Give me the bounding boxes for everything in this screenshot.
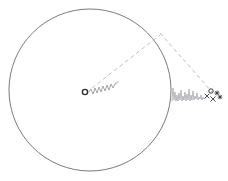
receiver-marker-star-1 [215, 91, 219, 95]
technical-diagram [0, 0, 228, 181]
figure-background [0, 0, 228, 181]
diagram-canvas [0, 0, 228, 181]
receiver-marker-star-2 [218, 95, 222, 99]
